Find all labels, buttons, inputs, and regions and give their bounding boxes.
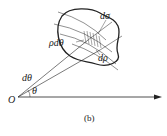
- drho-label: dρ: [98, 52, 108, 63]
- figure-caption: (b): [84, 113, 95, 123]
- polar-area-element-diagram: dσ ρdθ dρ dθ θ O (b): [0, 0, 167, 136]
- radial-line-1: [88, 22, 112, 40]
- origin-label: O: [8, 94, 15, 105]
- dtheta-label: dθ: [22, 72, 32, 83]
- theta-label: θ: [32, 85, 37, 96]
- dsigma-leader: [98, 20, 106, 34]
- rho-arc-1: [58, 12, 106, 40]
- ray-upper: [18, 40, 88, 97]
- axis-arrow-icon: [154, 95, 162, 100]
- radial-line-2: [100, 36, 122, 50]
- rho-dtheta-label: ρdθ: [48, 37, 64, 48]
- dsigma-label: dσ: [100, 10, 111, 21]
